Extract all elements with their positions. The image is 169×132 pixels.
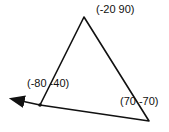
triangle-diagram: [0, 0, 169, 132]
vertex-label-right: (70 -70): [120, 96, 159, 107]
vertex-label-left: (-80 -40): [27, 78, 69, 89]
vertex-dot: [38, 103, 42, 107]
vertex-label-top: (-20 90): [96, 4, 135, 15]
direction-arrow: [12, 99, 40, 105]
